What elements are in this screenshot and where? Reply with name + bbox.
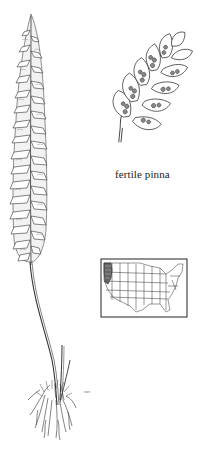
roots [28,383,76,440]
fertile-pinna-detail [85,27,197,147]
fern-drawing [0,0,197,450]
detail-caption: fertile pinna [115,168,170,180]
rhizome-scales [36,380,72,396]
range-map [101,259,187,317]
frond-blade [10,14,47,265]
artist-signature: swr [84,389,90,394]
botanical-plate: fertile pinna swr [0,0,197,450]
stipe [30,262,70,405]
